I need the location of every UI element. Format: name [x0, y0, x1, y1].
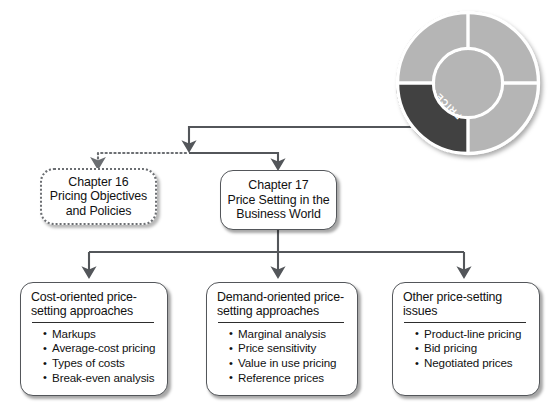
cost-oriented-heading: Cost-oriented price- setting approaches — [31, 290, 158, 319]
other-issues-heading-line-1: Other price-setting — [403, 290, 530, 304]
chapter-17-line-1: Chapter 17 — [227, 178, 329, 193]
list-item: Negotiated prices — [415, 356, 530, 371]
list-item: Value in use pricing — [229, 356, 348, 371]
other-issues-divider — [404, 322, 526, 323]
connector-bus-to-chapter16 — [98, 153, 186, 163]
node-cost-oriented-approaches[interactable]: Cost-oriented price- setting approaches … — [20, 282, 168, 396]
list-item: Reference prices — [229, 371, 348, 386]
demand-oriented-divider — [218, 322, 344, 323]
list-item: Marginal analysis — [229, 327, 348, 342]
connector-bus-to-chapter17 — [189, 153, 278, 164]
demand-oriented-list: Marginal analysis Price sensitivity Valu… — [217, 327, 348, 385]
node-chapter-16[interactable]: Chapter 16 Pricing Objectives and Polici… — [40, 168, 157, 225]
cost-oriented-divider — [32, 322, 154, 323]
other-issues-heading-line-2: issues — [403, 304, 530, 318]
demand-oriented-heading-line-2: setting approaches — [217, 304, 348, 318]
node-other-price-setting-issues[interactable]: Other price-setting issues Product-line … — [392, 282, 540, 396]
list-item: Bid pricing — [415, 341, 530, 356]
other-issues-heading: Other price-setting issues — [403, 290, 530, 319]
cost-oriented-heading-line-2: setting approaches — [31, 304, 158, 318]
chapter-16-line-3: and Policies — [50, 204, 147, 219]
wheel-hub — [435, 50, 501, 116]
list-item: Price sensitivity — [229, 341, 348, 356]
chapter-16-text: Chapter 16 Pricing Objectives and Polici… — [50, 175, 147, 219]
demand-oriented-heading: Demand-oriented price- setting approache… — [217, 290, 348, 319]
cost-oriented-list: Markups Average-cost pricing Types of co… — [31, 327, 158, 385]
diagram-canvas: PRICE Chapter 16 Pricing Objectives and … — [0, 0, 558, 413]
demand-oriented-heading-line-1: Demand-oriented price- — [217, 290, 348, 304]
list-item: Product-line pricing — [415, 327, 530, 342]
other-issues-list: Product-line pricing Bid pricing Negotia… — [403, 327, 530, 371]
node-chapter-17[interactable]: Chapter 17 Price Setting in the Business… — [220, 170, 337, 230]
list-item: Markups — [43, 327, 158, 342]
chapter-17-text: Chapter 17 Price Setting in the Business… — [227, 178, 329, 222]
chapter-17-line-2: Price Setting in the — [227, 193, 329, 208]
connector-chapter17-trunk — [89, 230, 464, 252]
node-demand-oriented-approaches[interactable]: Demand-oriented price- setting approache… — [206, 282, 358, 396]
marketing-mix-wheel — [392, 7, 548, 163]
connector-wheel-to-bus — [189, 127, 424, 146]
chapter-16-line-2: Pricing Objectives — [50, 189, 147, 204]
chapter-17-line-3: Business World — [227, 207, 329, 222]
list-item: Types of costs — [43, 356, 158, 371]
cost-oriented-heading-line-1: Cost-oriented price- — [31, 290, 158, 304]
list-item: Break-even analysis — [43, 371, 158, 386]
chapter-16-line-1: Chapter 16 — [50, 175, 147, 190]
list-item: Average-cost pricing — [43, 341, 158, 356]
